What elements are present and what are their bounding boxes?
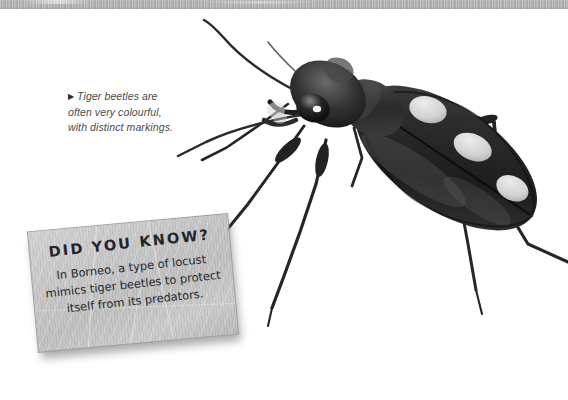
caption-line-3: with distinct markings. (68, 121, 173, 133)
did-you-know-box: DID YOU KNOW? In Borneo, a type of locus… (24, 214, 252, 364)
book-page: ▶Tiger beetles are often very colourful,… (0, 0, 568, 400)
caption-line-1: Tiger beetles are (77, 90, 157, 102)
beetle-eye-highlight (313, 106, 321, 112)
caption-arrow-icon: ▶ (68, 92, 74, 101)
band-highlight-left (22, 0, 92, 4)
photo-caption: ▶Tiger beetles are often very colourful,… (68, 89, 196, 135)
did-you-know-panel: DID YOU KNOW? In Borneo, a type of locus… (27, 213, 239, 353)
band-highlight-mid (200, 1, 320, 4)
did-you-know-body: In Borneo, a type of locust mimics tiger… (41, 249, 225, 319)
caption-line-2: often very colourful, (68, 106, 162, 118)
